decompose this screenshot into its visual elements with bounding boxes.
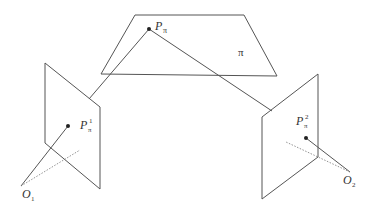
label-p2: P <box>295 114 304 128</box>
point-p2 <box>304 136 308 140</box>
ray-p-to-plane1 <box>89 29 149 99</box>
label-o1-sub: 1 <box>31 195 35 203</box>
label-plane-pi: π <box>238 46 244 58</box>
label-p-pi: P <box>154 19 163 33</box>
label-p1-sup: 1 <box>89 117 93 125</box>
ray-o2-to-p2 <box>306 138 350 172</box>
label-p1: P <box>79 118 88 132</box>
label-o2-sub: 2 <box>352 181 356 189</box>
label-o1: O <box>22 187 31 201</box>
point-p-pi <box>147 27 151 31</box>
optical-axis-1 <box>21 150 80 186</box>
image-plane-1 <box>45 63 100 189</box>
point-p1 <box>66 124 70 128</box>
label-p2-sub: π <box>304 122 308 130</box>
label-o2: O <box>343 173 352 187</box>
stereo-projection-diagram: P π π P 1 π P 2 π O 1 O 2 <box>0 0 372 213</box>
ray-p-to-plane2 <box>149 29 272 111</box>
plane-pi <box>101 15 277 76</box>
label-p-pi-sub: π <box>163 26 167 35</box>
label-p1-sub: π <box>88 126 92 134</box>
image-plane-2 <box>262 74 318 199</box>
label-p2-sup: 2 <box>305 113 309 121</box>
